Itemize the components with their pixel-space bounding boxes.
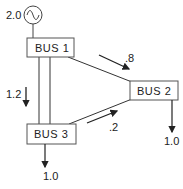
generator-icon xyxy=(24,6,42,38)
load-label-bus3: 1.0 xyxy=(43,170,58,182)
svg-text:BUS 1: BUS 1 xyxy=(35,42,69,54)
flow-label-bus3-bus2: .2 xyxy=(109,121,118,133)
load-label-bus2: 1.0 xyxy=(164,135,179,147)
bus-2: BUS 2 xyxy=(130,81,178,100)
transmission-lines xyxy=(39,57,132,124)
generator-output-label: 2.0 xyxy=(6,9,21,21)
power-system-diagram: 2.0 BUS 1 BUS 2 BUS 3 1.2 .8 .2 1.0 1.0 xyxy=(0,0,183,189)
svg-text:BUS 2: BUS 2 xyxy=(137,85,171,97)
svg-text:BUS 3: BUS 3 xyxy=(34,128,68,140)
flow-label-bus1-bus2: .8 xyxy=(125,52,134,64)
bus-3: BUS 3 xyxy=(27,124,76,144)
flow-label-bus1-bus3: 1.2 xyxy=(6,88,21,100)
bus-1: BUS 1 xyxy=(27,38,74,57)
